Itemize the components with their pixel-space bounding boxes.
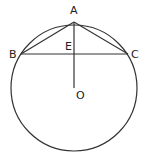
label-o: O <box>76 89 85 102</box>
segment-ac <box>74 22 128 54</box>
label-b: B <box>9 48 17 61</box>
geometry-diagram: A B C E O <box>0 0 146 164</box>
label-e: E <box>65 40 72 53</box>
label-a: A <box>70 4 78 17</box>
label-c: C <box>131 48 139 61</box>
